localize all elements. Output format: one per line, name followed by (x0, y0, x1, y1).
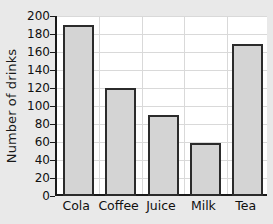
y-axis-tick-mark (50, 160, 55, 161)
bar-milk (190, 143, 221, 196)
clipped-chart-title: . (0, 0, 273, 5)
y-axis-tick-label: 80 (10, 119, 50, 129)
y-axis-tick-mark (50, 52, 55, 53)
y-axis-tick-mark (50, 88, 55, 89)
x-axis-tick-label-juice: Juice (140, 198, 182, 213)
y-axis-tick-mark (50, 178, 55, 179)
y-axis-tick-label: 120 (10, 83, 50, 93)
x-axis-tick-label-coffee: Coffee (97, 198, 139, 213)
bar-cola (63, 25, 94, 196)
y-axis-tick-label: 0 (10, 191, 50, 201)
y-axis-tick-mark (50, 106, 55, 107)
x-axis-tick-label-tea: Tea (225, 198, 267, 213)
y-axis-tick-label: 60 (10, 137, 50, 147)
gridline-vertical (142, 16, 143, 194)
gridline-horizontal (57, 16, 267, 17)
plot-area (55, 16, 267, 196)
bar-chart-figure: . Number of drinks 020406080100120140160… (0, 0, 273, 224)
x-axis-tick-label-cola: Cola (55, 198, 97, 213)
y-axis-tick-label: 180 (10, 29, 50, 39)
y-axis-tick-label: 100 (10, 101, 50, 111)
y-axis-tick-label: 20 (10, 173, 50, 183)
y-axis-tick-label: 40 (10, 155, 50, 165)
y-axis-tick-mark (50, 34, 55, 35)
y-axis-tick-mark (50, 196, 55, 197)
y-axis-tick-labels: 020406080100120140160180200 (10, 10, 50, 196)
bar-coffee (105, 88, 136, 196)
bar-tea (232, 44, 263, 196)
y-axis-tick-label: 200 (10, 11, 50, 21)
gridline-vertical (184, 16, 185, 194)
gridline-vertical (227, 16, 228, 194)
y-axis-tick-mark (50, 124, 55, 125)
y-axis-tick-label: 160 (10, 47, 50, 57)
plot-inner (57, 16, 267, 194)
gridline-vertical (99, 16, 100, 194)
y-axis-tick-mark (50, 142, 55, 143)
bar-juice (148, 115, 179, 196)
y-axis-tick-mark (50, 70, 55, 71)
y-axis-tick-label: 140 (10, 65, 50, 75)
x-axis-tick-label-milk: Milk (182, 198, 224, 213)
y-axis-tick-mark (50, 16, 55, 17)
x-axis-tick-labels: ColaCoffeeJuiceMilkTea (55, 198, 267, 216)
